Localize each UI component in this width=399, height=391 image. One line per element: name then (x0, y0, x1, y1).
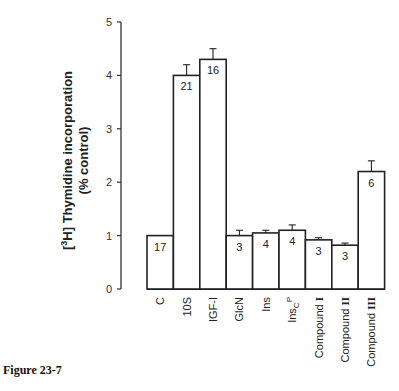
bar-ins: 4 (253, 230, 279, 289)
x-tick-label: Ins (260, 297, 272, 312)
sample-size-label: 17 (154, 241, 166, 253)
bar-igf-i: 16 (200, 49, 226, 289)
bar-compound-ii: 3 (332, 243, 358, 289)
y-axis-title-line-1: [3H] Thymidine incorporation (59, 71, 75, 250)
sample-size-label: 3 (316, 245, 322, 257)
sample-size-label: 3 (342, 250, 348, 262)
bar-10s: 21 (173, 65, 199, 289)
y-tick-label: 1 (106, 230, 112, 242)
sample-size-label: 21 (180, 80, 192, 92)
bar-glcn: 3 (226, 230, 252, 289)
sample-size-label: 16 (207, 64, 219, 76)
y-axis-title: [3H] Thymidine incorporation(% control) (59, 71, 91, 250)
x-tick-label: InsCP (285, 297, 301, 323)
bar-compound-iii: 6 (358, 161, 384, 289)
x-tick-label: Compound I (313, 297, 325, 358)
y-tick-label: 4 (106, 69, 112, 81)
y-tick-label: 2 (106, 176, 112, 188)
bar-chart: 012345 172116344336 C10SIGF-IGlcNInsInsC… (0, 0, 399, 391)
y-tick-label: 0 (106, 283, 112, 295)
sample-size-label: 4 (289, 235, 295, 247)
y-tick-label: 3 (106, 123, 112, 135)
y-tick-label: 5 (106, 16, 112, 28)
bar-c: 17 (147, 236, 173, 289)
x-tick-label: C (154, 297, 166, 305)
sample-size-label: 3 (236, 241, 242, 253)
x-tick-label: Compound II (339, 297, 351, 362)
x-tick-label: IGF-I (207, 297, 219, 322)
x-axis-labels: C10SIGF-IGlcNInsInsCPCompound ICompound … (154, 297, 377, 367)
figure-caption: Figure 23-7 (3, 363, 62, 378)
x-tick-label: 10S (181, 297, 193, 317)
sample-size-label: 4 (263, 238, 269, 250)
x-tick-label: Compound III (365, 297, 377, 367)
y-axis: 012345 (106, 16, 121, 295)
bar-compound-i: 3 (305, 238, 331, 289)
y-axis-title-line-2: (% control) (76, 127, 91, 195)
bars: 172116344336 (147, 49, 385, 289)
bar-inscp: 4 (279, 225, 305, 289)
x-tick-label: GlcN (233, 297, 245, 322)
sample-size-label: 6 (368, 177, 374, 189)
